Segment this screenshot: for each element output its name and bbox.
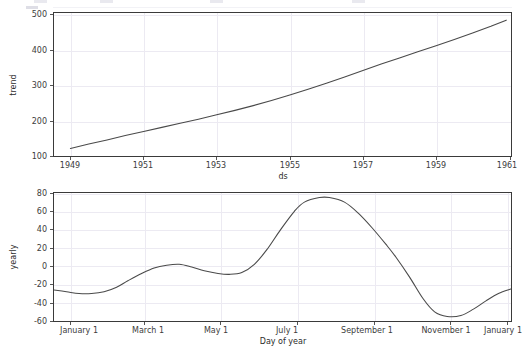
trend-line [54, 13, 511, 156]
xtick-mark [220, 322, 221, 325]
yearly-yaxis-title: yearly [9, 245, 18, 270]
yearly-subplot: -60 -40 -20 0 20 40 60 80 January 1 Marc… [0, 182, 526, 364]
ytick-label-neg60: -60 [20, 317, 47, 326]
gridline-y-neg60 [54, 321, 511, 322]
xtick-label-july-1: July 1 [276, 326, 298, 335]
ytick-label-neg40: -40 [20, 299, 47, 308]
xtick-label-1955: 1955 [280, 161, 300, 170]
ytick-label-500: 500 [22, 10, 47, 19]
xtick-mark [70, 157, 71, 160]
ytick-label-60: 60 [20, 207, 47, 216]
ytick-label-0: 0 [20, 262, 47, 271]
xtick-mark [450, 322, 451, 325]
ytick-mark [50, 303, 53, 304]
xtick-mark [507, 322, 508, 325]
ytick-mark [50, 85, 53, 86]
ytick-mark [50, 266, 53, 267]
xtick-label-january-1-end: January 1 [484, 326, 522, 335]
yearly-plot-area [53, 192, 512, 322]
xtick-mark [436, 157, 437, 160]
xtick-mark [297, 322, 298, 325]
ytick-label-40: 40 [20, 225, 47, 234]
trend-subplot: 100 200 300 400 500 1949 1951 1953 1955 … [0, 0, 526, 182]
ytick-mark [50, 156, 53, 157]
trend-yaxis-title: trend [9, 74, 18, 95]
ytick-mark [50, 14, 53, 15]
ytick-label-400: 400 [22, 46, 47, 55]
trend-xaxis-title: ds [278, 172, 287, 181]
xtick-label-march-1: March 1 [132, 326, 164, 335]
xtick-label-1949: 1949 [60, 161, 80, 170]
xtick-mark [144, 322, 145, 325]
xtick-label-1953: 1953 [206, 161, 226, 170]
ytick-mark [50, 211, 53, 212]
prophet-components-figure: 100 200 300 400 500 1949 1951 1953 1955 … [0, 0, 526, 364]
ytick-mark [50, 50, 53, 51]
ytick-label-300: 300 [22, 81, 47, 90]
ytick-label-20: 20 [20, 244, 47, 253]
yearly-seasonality-line [54, 193, 511, 321]
ytick-mark [50, 193, 53, 194]
ytick-mark [50, 229, 53, 230]
xtick-label-may-1: May 1 [204, 326, 228, 335]
xtick-label-1951: 1951 [133, 161, 153, 170]
ytick-mark [50, 321, 53, 322]
xtick-mark [363, 157, 364, 160]
ytick-label-neg20: -20 [20, 280, 47, 289]
xtick-mark [510, 157, 511, 160]
ytick-label-200: 200 [22, 117, 47, 126]
xtick-label-september-1: September 1 [341, 326, 393, 335]
gridline-x-1961 [511, 13, 512, 156]
xtick-mark [290, 157, 291, 160]
ytick-mark [50, 248, 53, 249]
ytick-label-100: 100 [22, 152, 47, 161]
xtick-mark [143, 157, 144, 160]
xtick-mark [216, 157, 217, 160]
ytick-label-80: 80 [20, 189, 47, 198]
xtick-label-january-1: January 1 [60, 326, 98, 335]
ytick-mark [50, 284, 53, 285]
xtick-label-1961: 1961 [497, 161, 517, 170]
ytick-mark [50, 121, 53, 122]
xtick-label-1957: 1957 [353, 161, 373, 170]
xtick-mark [374, 322, 375, 325]
xtick-label-november-1: November 1 [421, 326, 470, 335]
yearly-xaxis-title: Day of year [260, 337, 306, 346]
xtick-mark [70, 322, 71, 325]
trend-plot-area [53, 12, 512, 157]
xtick-label-1959: 1959 [426, 161, 446, 170]
